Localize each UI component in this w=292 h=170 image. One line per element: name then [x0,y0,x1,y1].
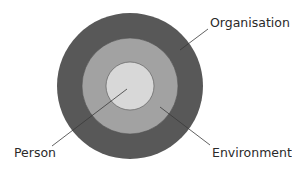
person-circle [106,62,154,110]
person-label: Person [14,145,56,160]
environment-label: Environment [212,145,292,160]
concentric-diagram: Organisation Person Environment [0,0,292,170]
organisation-label: Organisation [210,15,290,30]
